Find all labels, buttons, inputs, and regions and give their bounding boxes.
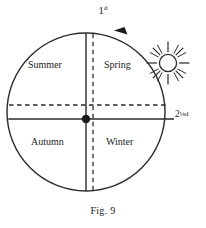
- label-day-two-eighth: 2⅛d: [175, 110, 189, 120]
- figure-caption: Fig. 9: [0, 206, 206, 216]
- season-label-spring: Spring: [104, 60, 131, 70]
- label-day-two-eighth-unit: d: [185, 110, 189, 118]
- season-label-summer: Summer: [28, 60, 62, 70]
- season-label-autumn: Autumn: [31, 137, 64, 147]
- sun-icon: [147, 42, 190, 85]
- figure-page: 1d 2⅛d Summer Spring Autumn Winter Fig. …: [0, 0, 206, 228]
- label-day-one-superscript: d: [104, 4, 108, 12]
- label-day-one: 1d: [0, 6, 206, 17]
- counterclockwise-arrow-icon: [114, 27, 128, 35]
- season-label-winter: Winter: [106, 137, 133, 147]
- center-dot-icon: [82, 115, 90, 123]
